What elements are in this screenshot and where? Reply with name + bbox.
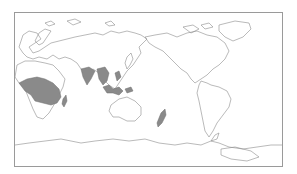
range-africa (19, 77, 61, 105)
greenland-coastline (219, 21, 251, 41)
australia-coastline (109, 97, 141, 121)
arctic-islands (45, 19, 115, 26)
range-madagascar (62, 95, 67, 107)
north-america-coastline (145, 31, 229, 83)
antarctica-coastline (15, 139, 283, 149)
range-southeast-asia (97, 67, 109, 85)
antarctic-peninsula (211, 133, 259, 161)
world-map (14, 12, 283, 167)
map-canvas (15, 13, 283, 167)
range-india (81, 67, 95, 85)
south-america-coastline (197, 81, 231, 137)
range-new-zealand (157, 109, 166, 127)
scandinavia-coastline (35, 29, 51, 45)
